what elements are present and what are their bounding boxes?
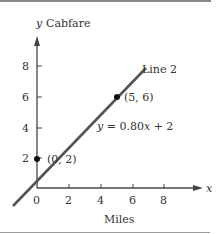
x-tick-label: 4 xyxy=(97,194,104,207)
x-tick-label: 8 xyxy=(160,194,167,207)
y-tick-label: 4 xyxy=(22,122,29,135)
y-tick-label: 6 xyxy=(22,91,29,104)
line-2 xyxy=(13,68,146,206)
y-tick-label: 8 xyxy=(22,60,29,73)
point-label: (0, 2) xyxy=(47,153,77,166)
x-axis-title: Miles xyxy=(104,213,135,226)
y-ticks xyxy=(37,66,42,158)
chart: 8 6 4 2 0 2 4 6 8 y Cabfare x Miles Line… xyxy=(0,0,219,234)
y-axis-arrow-icon xyxy=(34,36,40,46)
bottom-border xyxy=(0,232,210,233)
x-axis-symbol: x xyxy=(206,182,213,195)
x-tick-label: 0 xyxy=(33,194,40,207)
line-label: Line 2 xyxy=(142,63,177,76)
y-axis-title: Cabfare xyxy=(46,17,90,30)
point-0-2 xyxy=(34,156,40,162)
equation-label: y = 0.80x + 2 xyxy=(96,120,173,133)
point-5-6 xyxy=(114,94,120,100)
x-axis-arrow-icon xyxy=(193,185,203,191)
x-tick-label: 6 xyxy=(129,194,136,207)
x-tick-label: 2 xyxy=(65,194,72,207)
point-label: (5, 6) xyxy=(124,91,154,104)
y-axis-symbol: y xyxy=(35,17,43,30)
y-tick-label: 2 xyxy=(22,152,29,165)
